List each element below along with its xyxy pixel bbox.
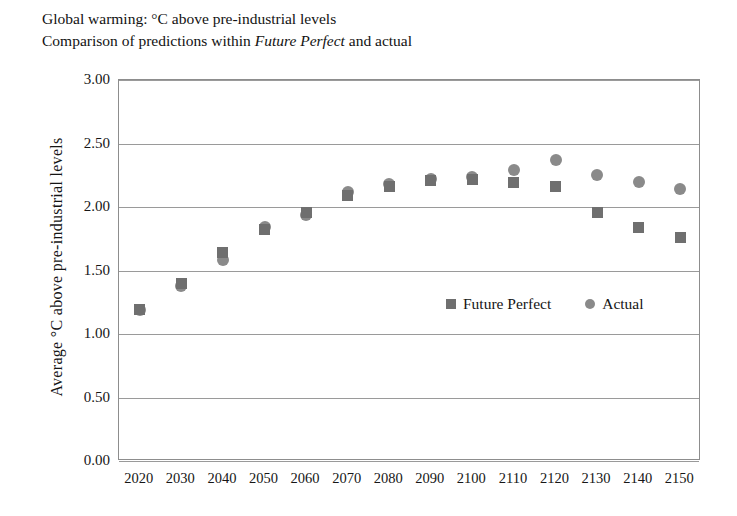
y-axis-tick-label: 0.00 [52,452,110,469]
gridline [119,271,699,272]
x-axis-tick-labels: 2020203020402050206020702080209021002110… [118,470,700,496]
data-point-marker [550,181,561,192]
chart-title-line-1: Global warming: °C above pre-industrial … [42,8,682,30]
chart-title-block: Global warming: °C above pre-industrial … [42,8,682,52]
data-point-marker [674,183,686,195]
x-axis-tick-label: 2100 [448,470,494,487]
data-point-marker [508,164,520,176]
chart-subtitle-prefix: Comparison of predictions within [42,32,255,49]
gridline [119,80,699,81]
data-point-marker [342,190,353,201]
gridline [119,334,699,335]
plot-area [119,80,699,459]
x-axis-tick-label: 2050 [241,470,287,487]
data-point-marker [508,177,519,188]
x-axis-tick-label: 2060 [282,470,328,487]
x-axis-tick-label: 2150 [656,470,702,487]
legend-entry-future-perfect: Future Perfect [446,295,551,313]
legend-label-actual: Actual [602,295,643,313]
y-axis-tick-label: 0.50 [52,388,110,405]
data-point-marker [217,247,228,258]
x-axis-tick-label: 2130 [573,470,619,487]
data-point-marker [259,224,270,235]
data-point-marker [301,207,312,218]
x-axis-tick-label: 2120 [532,470,578,487]
chart-subtitle-suffix: and actual [345,32,412,49]
data-point-marker [384,181,395,192]
data-point-marker [591,169,603,181]
chart-plot-frame [118,79,700,460]
y-axis-tick-label: 2.00 [52,198,110,215]
data-point-marker [467,174,478,185]
x-axis-tick-label: 2110 [490,470,536,487]
data-point-marker [176,278,187,289]
x-axis-tick-label: 2080 [365,470,411,487]
x-axis-tick-label: 2030 [157,470,203,487]
circle-marker-icon [585,299,595,309]
y-axis-tick-label: 3.00 [52,71,110,88]
legend-entry-actual: Actual [585,295,643,313]
x-axis-tick-label: 2070 [324,470,370,487]
data-point-marker [134,304,145,315]
data-point-marker [425,175,436,186]
chart-subtitle-emphasis: Future Perfect [255,32,345,49]
gridline [119,398,699,399]
y-axis-tick-labels: 0.000.501.001.502.002.503.00 [52,79,110,460]
y-axis-tick-label: 1.00 [52,325,110,342]
legend-label-future-perfect: Future Perfect [463,295,551,313]
chart-title-line-2: Comparison of predictions within Future … [42,30,682,52]
data-point-marker [633,222,644,233]
chart-legend: Future Perfect Actual [446,295,644,313]
y-axis-tick-label: 2.50 [52,134,110,151]
y-axis-tick-label: 1.50 [52,261,110,278]
gridline [119,144,699,145]
x-axis-tick-label: 2020 [116,470,162,487]
x-axis-tick-label: 2090 [407,470,453,487]
x-axis-tick-label: 2040 [199,470,245,487]
data-point-marker [633,176,645,188]
gridline [119,461,699,462]
data-point-marker [592,207,603,218]
data-point-marker [675,232,686,243]
square-marker-icon [446,299,456,309]
data-point-marker [550,154,562,166]
x-axis-tick-label: 2140 [615,470,661,487]
gridline [119,207,699,208]
